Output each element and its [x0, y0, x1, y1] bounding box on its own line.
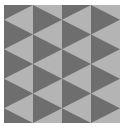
dark-triangle	[33, 123, 62, 140]
dark-triangle	[33, 0, 62, 5]
dark-triangle	[4, 138, 33, 140]
dark-triangle	[91, 123, 120, 140]
triangle-pattern	[0, 0, 124, 140]
dark-triangle	[91, 0, 120, 5]
dark-triangle	[62, 138, 91, 140]
